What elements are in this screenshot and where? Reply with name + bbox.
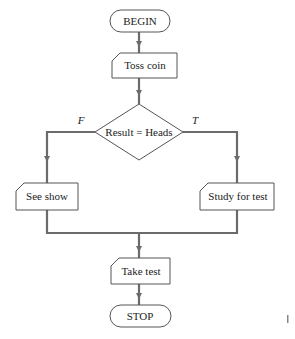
node-study-label: Study for test (208, 190, 267, 202)
branch-false-label: F (77, 114, 85, 126)
scan-mark (287, 315, 289, 323)
flowchart: BEGIN Toss coin Result = Heads F T See s… (0, 0, 295, 339)
node-toss-label: Toss coin (124, 59, 166, 71)
arrow-down-icon (136, 293, 142, 299)
node-see-show-label: See show (26, 190, 68, 202)
arrow-down-icon (44, 156, 50, 162)
node-take-test: Take test (111, 258, 170, 284)
node-decision-label: Result = Heads (105, 126, 172, 138)
arrow-down-icon (136, 41, 142, 47)
node-toss: Toss coin (112, 53, 177, 78)
arrow-down-icon (136, 90, 142, 96)
node-begin: BEGIN (110, 10, 170, 32)
node-study: Study for test (200, 183, 274, 210)
edge-merge (47, 210, 237, 233)
edge-decision-true (183, 132, 237, 183)
node-see-show: See show (16, 183, 78, 210)
arrow-down-icon (234, 156, 240, 162)
arrow-down-icon (136, 246, 142, 252)
edge-decision-false (47, 132, 95, 183)
node-decision: Result = Heads (95, 104, 183, 160)
node-take-test-label: Take test (121, 265, 160, 277)
node-begin-label: BEGIN (123, 15, 157, 27)
branch-true-label: T (192, 114, 199, 126)
node-stop-label: STOP (127, 310, 154, 322)
node-stop: STOP (110, 305, 171, 327)
